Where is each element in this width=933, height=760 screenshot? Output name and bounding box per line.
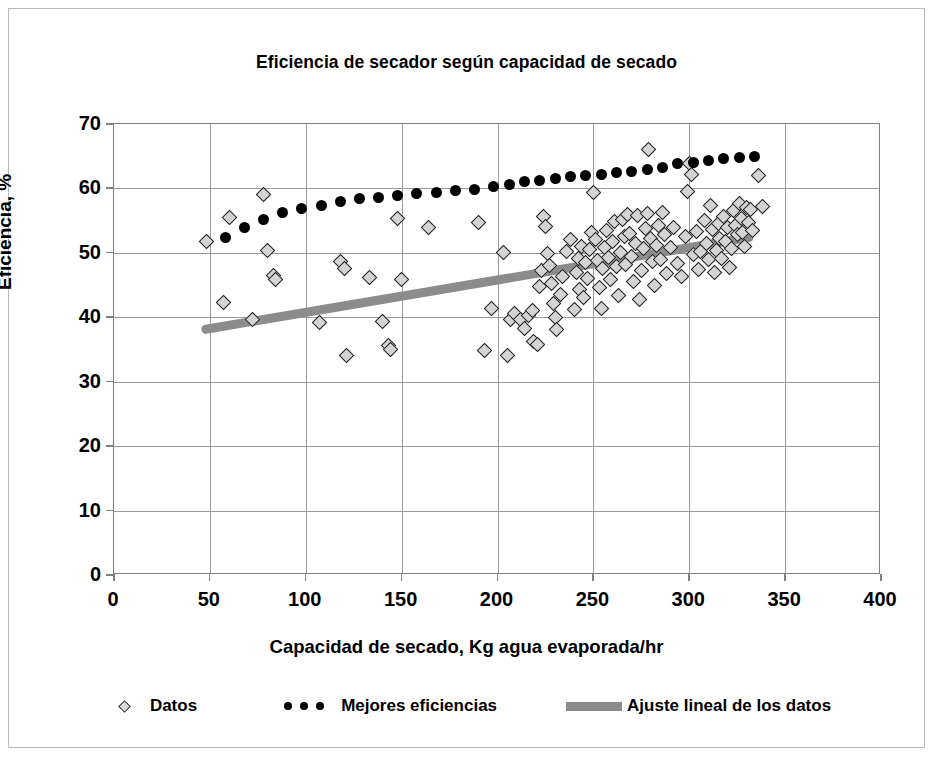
legend-item-ajuste-lineal: Ajuste lineal de los datos — [563, 696, 831, 716]
data-point-mejores-eficiencias — [239, 222, 250, 233]
legend-label-mejores-eficiencias: Mejores eficiencias — [341, 696, 497, 716]
x-tick-label: 0 — [73, 588, 153, 611]
y-tick-mark — [106, 381, 113, 383]
data-point-mejores-eficiencias — [431, 187, 442, 198]
y-tick-mark — [106, 187, 113, 189]
x-tick-label: 350 — [744, 588, 824, 611]
x-tick-label: 100 — [265, 588, 345, 611]
data-point-mejores-eficiencias — [657, 162, 668, 173]
y-tick-mark — [106, 123, 113, 125]
x-tick-label: 250 — [552, 588, 632, 611]
y-tick-mark — [106, 574, 113, 576]
y-tick-label: 30 — [31, 369, 101, 392]
data-point-mejores-eficiencias — [703, 155, 714, 166]
x-tick-mark — [497, 574, 499, 581]
data-point-mejores-eficiencias — [611, 167, 622, 178]
data-point-mejores-eficiencias — [688, 157, 699, 168]
y-tick-mark — [106, 510, 113, 512]
plot-area — [113, 123, 880, 574]
dotted-marker-icon — [269, 702, 339, 710]
x-tick-label: 200 — [457, 588, 537, 611]
y-axis-title: Eficiencia, % — [0, 174, 16, 290]
data-point-mejores-eficiencias — [220, 232, 231, 243]
x-tick-mark — [784, 574, 786, 581]
data-point-mejores-eficiencias — [316, 200, 327, 211]
y-tick-mark — [106, 445, 113, 447]
y-tick-mark — [106, 252, 113, 254]
x-axis-title: Capacidad de secado, Kg agua evaporada/h… — [0, 636, 933, 658]
data-point-mejores-eficiencias — [626, 166, 637, 177]
data-point-mejores-eficiencias — [596, 169, 607, 180]
chart-title: Eficiencia de secador según capacidad de… — [0, 52, 933, 73]
y-tick-label: 50 — [31, 240, 101, 263]
x-tick-mark — [688, 574, 690, 581]
data-point-mejores-eficiencias — [642, 164, 653, 175]
linear-fit-line — [114, 124, 879, 573]
data-point-mejores-eficiencias — [550, 173, 561, 184]
y-tick-label: 20 — [31, 434, 101, 457]
x-tick-label: 300 — [648, 588, 728, 611]
y-tick-label: 60 — [31, 176, 101, 199]
x-tick-label: 400 — [840, 588, 920, 611]
data-point-mejores-eficiencias — [504, 179, 515, 190]
thick-line-icon — [563, 702, 625, 711]
diamond-marker-icon — [102, 702, 148, 711]
data-point-mejores-eficiencias — [277, 207, 288, 218]
y-tick-mark — [106, 316, 113, 318]
legend-item-mejores-eficiencias: Mejores eficiencias — [269, 696, 497, 716]
x-tick-mark — [880, 574, 882, 581]
y-tick-label: 10 — [31, 498, 101, 521]
data-point-mejores-eficiencias — [469, 184, 480, 195]
y-tick-label: 0 — [31, 563, 101, 586]
data-point-mejores-eficiencias — [734, 152, 745, 163]
x-tick-label: 50 — [169, 588, 249, 611]
x-tick-label: 150 — [361, 588, 441, 611]
y-tick-label: 40 — [31, 305, 101, 328]
data-point-mejores-eficiencias — [450, 185, 461, 196]
legend-label-datos: Datos — [150, 696, 197, 716]
data-point-mejores-eficiencias — [373, 192, 384, 203]
legend-item-datos: Datos — [102, 696, 197, 716]
x-tick-mark — [592, 574, 594, 581]
x-tick-mark — [305, 574, 307, 581]
x-tick-mark — [113, 574, 115, 581]
legend-label-ajuste-lineal: Ajuste lineal de los datos — [627, 696, 831, 716]
y-tick-label: 70 — [31, 112, 101, 135]
x-tick-mark — [401, 574, 403, 581]
chart-legend: Datos Mejores eficiencias Ajuste lineal … — [0, 696, 933, 716]
x-tick-mark — [209, 574, 211, 581]
chart-figure: Eficiencia de secador según capacidad de… — [0, 0, 933, 760]
